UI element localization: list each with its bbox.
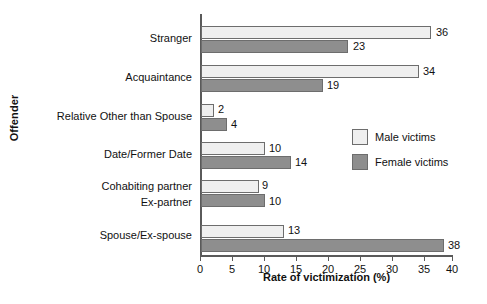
x-tick-15 [296, 256, 297, 261]
bar-chart: Offender Stranger Acquaintance Relative … [0, 0, 487, 304]
category-label-line: Acquaintance [125, 71, 192, 83]
category-label-list: Stranger Acquaintance Relative Other tha… [0, 14, 197, 255]
bar-value-female-relative: 4 [231, 118, 237, 131]
x-axis-line [200, 255, 453, 257]
bar-male-relative [201, 104, 214, 117]
category-label-line: Relative Other than Spouse [57, 110, 192, 122]
bar-female-acquaintance [201, 79, 323, 92]
x-tick-40 [452, 256, 453, 261]
bar-value-male-acquaintance: 34 [423, 65, 435, 78]
bar-value-male-spouse: 13 [288, 224, 300, 237]
bar-value-male-stranger: 36 [436, 26, 448, 39]
bar-female-ex-partner [201, 194, 265, 207]
category-label-line-cohabiting-partner: Cohabiting partner [101, 180, 192, 192]
category-label-date-former-date: Date/Former Date [104, 148, 192, 160]
x-tick-30 [392, 256, 393, 261]
legend-item-male-victims: Male victims [352, 127, 448, 147]
bar-value-male-relative: 2 [218, 103, 224, 116]
category-label-acquaintance: Acquaintance [125, 71, 192, 83]
bar-male-cohabiting-partner [201, 180, 259, 193]
category-label-relative-other-than-spouse: Relative Other than Spouse [57, 110, 192, 122]
legend-label-female-victims: Female victims [375, 156, 448, 168]
category-label-line: Date/Former Date [104, 148, 192, 160]
bar-value-female-date: 14 [295, 156, 307, 169]
bar-female-spouse [201, 239, 444, 252]
bar-male-stranger [201, 26, 431, 39]
category-label-spouse-ex-spouse: Spouse/Ex-spouse [100, 229, 192, 241]
x-tick-35 [424, 256, 425, 261]
bar-male-acquaintance [201, 65, 419, 78]
category-label-stranger: Stranger [150, 32, 192, 44]
bar-female-relative [201, 118, 227, 131]
x-tick-0 [200, 256, 201, 261]
legend-swatch-male-icon [352, 129, 368, 145]
category-label-line: Spouse/Ex-spouse [100, 229, 192, 241]
x-tick-20 [328, 256, 329, 261]
bar-male-spouse [201, 225, 284, 238]
x-tick-10 [264, 256, 265, 261]
bar-female-stranger [201, 40, 348, 53]
legend-item-female-victims: Female victims [352, 152, 448, 172]
bar-value-male-cohabiting-partner: 9 [262, 179, 268, 192]
x-tick-5 [232, 256, 233, 261]
category-label-cohabiting-ex-partner: Cohabiting partner Ex-partner [101, 180, 192, 208]
bar-female-date [201, 156, 291, 169]
legend: Male victims Female victims [352, 127, 448, 177]
bar-male-date [201, 142, 265, 155]
legend-label-male-victims: Male victims [375, 131, 436, 143]
x-axis-title: Rate of victimization (%) [200, 271, 453, 283]
bar-value-female-spouse: 38 [448, 239, 460, 252]
bar-value-female-ex-partner: 10 [269, 195, 281, 208]
bar-value-female-stranger: 23 [353, 40, 365, 53]
category-label-line-ex-partner: Ex-partner [101, 196, 192, 208]
bar-value-male-date: 10 [269, 142, 281, 155]
bar-value-female-acquaintance: 19 [327, 79, 339, 92]
legend-swatch-female-icon [352, 154, 368, 170]
category-label-line: Stranger [150, 32, 192, 44]
x-tick-25 [360, 256, 361, 261]
